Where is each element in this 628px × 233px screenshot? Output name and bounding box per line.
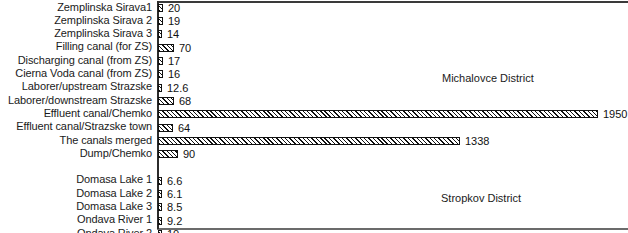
bar-wrapper: 6.6 xyxy=(158,177,162,185)
bar-wrapper: 20 xyxy=(158,4,163,12)
bar-row: Effluent canal/Strazske town64 xyxy=(0,121,628,134)
bar-row: Ondava River 210 xyxy=(0,228,628,233)
bar-row: Discharging canal (from ZS)17 xyxy=(0,55,628,68)
bar-row-label: Ondava River 1 xyxy=(0,213,152,226)
bar-wrapper: 14 xyxy=(158,30,162,38)
bar-value-label: 1338 xyxy=(465,135,489,148)
bar xyxy=(158,70,163,78)
group-annotation-stropkov: Stropkov District xyxy=(441,192,521,205)
bar-row: Cierna Voda canal (from ZS)16 xyxy=(0,68,628,81)
bar-value-label: 12.6 xyxy=(167,82,188,95)
bar-row-label: Zemplinska Sirava 3 xyxy=(0,27,152,40)
bar xyxy=(158,110,598,118)
bar-value-label: 14 xyxy=(167,28,179,41)
bar-value-label: 17 xyxy=(168,55,180,68)
bar-row-label: Zemplinska Sirava1 xyxy=(0,1,152,14)
bar-row-label: Domasa Lake 2 xyxy=(0,187,152,200)
bar-row-label: Discharging canal (from ZS) xyxy=(0,54,152,67)
bar-value-label: 6.1 xyxy=(167,188,182,201)
bar-wrapper: 19 xyxy=(158,17,163,25)
bar xyxy=(158,177,162,185)
bar-row-label: Ondava River 2 xyxy=(0,227,152,233)
bar xyxy=(158,124,173,132)
bar-wrapper: 68 xyxy=(158,97,174,105)
bar-row-label: Cierna Voda canal (from ZS) xyxy=(0,67,152,80)
bar-row: Zemplinska Sirava120 xyxy=(0,2,628,15)
bar xyxy=(158,44,174,52)
bar-chart: Zemplinska Sirava120Zemplinska Sirava 21… xyxy=(0,0,628,233)
bar-wrapper: 12.6 xyxy=(158,84,162,92)
bar xyxy=(158,4,163,12)
bar-row: The canals merged1338 xyxy=(0,135,628,148)
bar xyxy=(158,230,162,233)
bar-row-label: Laborer/upstream Strazske xyxy=(0,80,152,93)
bar-value-label: 10 xyxy=(167,228,179,233)
bar xyxy=(158,190,162,198)
bar-wrapper: 8.5 xyxy=(158,203,162,211)
bar-rows-container: Zemplinska Sirava120Zemplinska Sirava 21… xyxy=(0,0,628,233)
bar-wrapper: 17 xyxy=(158,57,163,65)
bar-wrapper: 6.1 xyxy=(158,190,162,198)
bar-value-label: 1950 xyxy=(603,108,627,121)
bar-wrapper: 90 xyxy=(158,150,178,158)
bar-value-label: 6.6 xyxy=(167,175,182,188)
bar xyxy=(158,150,178,158)
bar-row: Effluent canal/Chemko1950 xyxy=(0,108,628,121)
bar-row: Dump/Chemko90 xyxy=(0,148,628,161)
bar-wrapper: 70 xyxy=(158,44,174,52)
bar-row: Zemplinska Sirava 219 xyxy=(0,15,628,28)
bar-wrapper: 1338 xyxy=(158,137,460,145)
bar-row-label: Effluent canal/Strazske town xyxy=(0,120,152,133)
bar-value-label: 70 xyxy=(179,42,191,55)
bar-wrapper: 9.2 xyxy=(158,217,162,225)
bar-value-label: 64 xyxy=(178,122,190,135)
bar xyxy=(158,84,162,92)
bar-row: Laborer/downstream Strazske68 xyxy=(0,95,628,108)
bar-row: Laborer/upstream Strazske12.6 xyxy=(0,81,628,94)
group-annotation-michalovce: Michalovce District xyxy=(442,72,534,85)
bar-row-label: Filling canal (for ZS) xyxy=(0,40,152,53)
bar-row: Filling canal (for ZS)70 xyxy=(0,41,628,54)
bar-row: Zemplinska Sirava 314 xyxy=(0,28,628,41)
bar-row-label: Laborer/downstream Strazske xyxy=(0,94,152,107)
bar-wrapper: 10 xyxy=(158,230,162,233)
bar xyxy=(158,97,174,105)
bar xyxy=(158,217,162,225)
bar-row: Ondava River 19.2 xyxy=(0,214,628,227)
bar-value-label: 9.2 xyxy=(167,215,182,228)
bar-row: Domasa Lake 38.5 xyxy=(0,201,628,214)
bar-wrapper: 16 xyxy=(158,70,163,78)
bar-row: Domasa Lake 26.1 xyxy=(0,188,628,201)
bar-wrapper: 1950 xyxy=(158,110,598,118)
bar xyxy=(158,30,162,38)
bar-value-label: 68 xyxy=(179,95,191,108)
bar-row-label: Domasa Lake 1 xyxy=(0,173,152,186)
bar-row-label: Effluent canal/Chemko xyxy=(0,107,152,120)
bar-row-label: Zemplinska Sirava 2 xyxy=(0,14,152,27)
bar-value-label: 20 xyxy=(168,2,180,15)
bar xyxy=(158,17,163,25)
bar-row-label: The canals merged xyxy=(0,134,152,147)
bar xyxy=(158,203,162,211)
bar-value-label: 16 xyxy=(168,68,180,81)
bar-value-label: 8.5 xyxy=(167,201,182,214)
bar xyxy=(158,137,460,145)
bar-value-label: 90 xyxy=(183,148,195,161)
bar xyxy=(158,57,163,65)
bar-row-label: Dump/Chemko xyxy=(0,147,152,160)
bar-value-label: 19 xyxy=(168,15,180,28)
bar-row-spacer xyxy=(0,161,628,174)
bar-row: Domasa Lake 16.6 xyxy=(0,174,628,187)
bar-wrapper: 64 xyxy=(158,124,173,132)
bar-row-label: Domasa Lake 3 xyxy=(0,200,152,213)
